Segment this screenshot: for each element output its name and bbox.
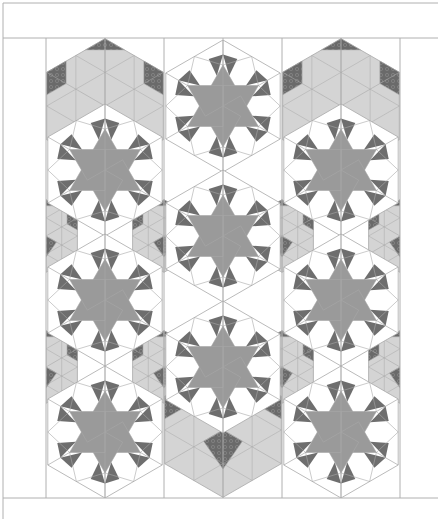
dark-rhombus-left <box>15 343 25 361</box>
dark-rhombus-right <box>421 212 431 230</box>
dark-rhombus-left <box>15 212 25 230</box>
quilt-svg <box>0 0 438 519</box>
quilt-pattern-canvas <box>0 0 438 519</box>
dark-rhombus-right <box>421 343 431 361</box>
